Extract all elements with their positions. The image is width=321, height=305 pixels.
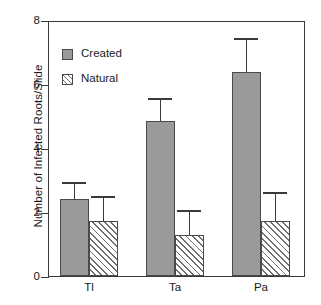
bar-natural-pa xyxy=(261,221,290,276)
bar-natural-tl xyxy=(89,221,118,276)
y-tick-label-2: 2 xyxy=(20,207,40,219)
x-tick-label-ta: Ta xyxy=(145,282,205,294)
legend-item-created: Created xyxy=(62,44,122,64)
bar-created-ta xyxy=(146,121,175,276)
error-stem-created-ta xyxy=(160,99,161,121)
x-tick-label-tl: Tl xyxy=(59,282,119,294)
y-tick-label-0: 0 xyxy=(20,271,40,283)
legend-swatch-created-icon xyxy=(62,49,73,60)
bar-created-pa xyxy=(232,72,261,276)
y-tick-label-8: 8 xyxy=(20,15,40,27)
error-cap-natural-tl xyxy=(91,196,115,197)
error-stem-natural-tl xyxy=(103,197,104,221)
bar-created-tl xyxy=(60,199,89,276)
x-tick-label-pa: Pa xyxy=(231,282,291,294)
error-cap-natural-ta xyxy=(177,210,201,211)
error-cap-natural-pa xyxy=(263,192,287,193)
bar-natural-ta xyxy=(175,235,204,276)
error-cap-created-pa xyxy=(234,38,258,39)
legend: Created Natural xyxy=(62,44,122,94)
bar-chart-figure: Number of Infected Roots/Slide 8 6 4 2 0 xyxy=(0,0,321,305)
legend-swatch-natural-icon xyxy=(62,74,73,85)
legend-item-natural: Natural xyxy=(62,69,122,89)
y-tick-label-6: 6 xyxy=(20,79,40,91)
legend-label-created: Created xyxy=(81,48,122,60)
error-stem-natural-ta xyxy=(189,211,190,235)
legend-label-natural: Natural xyxy=(81,73,118,85)
error-stem-natural-pa xyxy=(275,193,276,221)
error-stem-created-tl xyxy=(74,183,75,199)
y-tick-label-4: 4 xyxy=(20,143,40,155)
error-cap-created-tl xyxy=(62,182,86,183)
error-cap-created-ta xyxy=(148,98,172,99)
error-stem-created-pa xyxy=(246,39,247,72)
